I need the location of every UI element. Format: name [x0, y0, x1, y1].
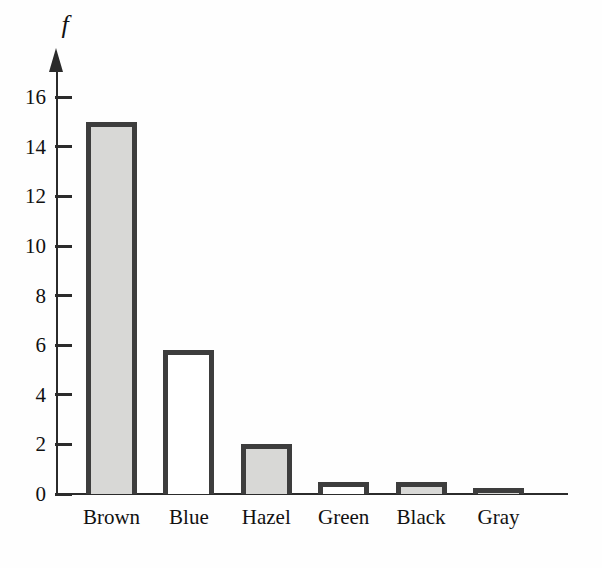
y-tick-label-14: 14 [4, 134, 46, 160]
bar-brown [86, 122, 137, 494]
y-tick-label-2: 2 [4, 431, 46, 457]
y-tick-mark-4 [55, 393, 72, 396]
y-tick-mark-16 [55, 96, 72, 99]
bar-green [318, 482, 369, 494]
y-tick-label-8: 8 [4, 283, 46, 309]
y-axis-label: f [50, 10, 80, 40]
y-tick-mark-0 [55, 493, 72, 496]
y-tick-label-16: 16 [4, 84, 46, 110]
bar-blue [163, 350, 214, 494]
bar-hazel [241, 444, 292, 494]
y-tick-label-12: 12 [4, 183, 46, 209]
y-axis-line [56, 62, 58, 494]
y-tick-mark-6 [55, 344, 72, 347]
y-tick-mark-12 [55, 195, 72, 198]
bar-gray [473, 488, 524, 494]
y-tick-mark-8 [55, 294, 72, 297]
y-tick-label-0: 0 [4, 481, 46, 507]
y-tick-mark-10 [55, 245, 72, 248]
bar-black [396, 482, 447, 494]
y-tick-label-6: 6 [4, 332, 46, 358]
y-tick-label-4: 4 [4, 382, 46, 408]
bar-chart-figure: f 0246810121416 BrownBlueHazelGreenBlack… [0, 0, 602, 568]
y-tick-mark-14 [55, 145, 72, 148]
y-tick-mark-2 [55, 443, 72, 446]
x-label-gray: Gray [451, 504, 547, 530]
y-tick-label-10: 10 [4, 233, 46, 259]
